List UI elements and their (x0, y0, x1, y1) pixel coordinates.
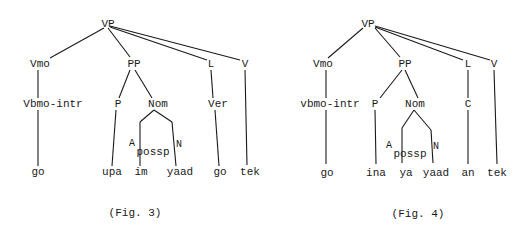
fig3-edges (38, 26, 247, 166)
node-l: L (465, 58, 472, 70)
node-pp: PP (398, 58, 411, 70)
node-vp: VP (361, 18, 374, 30)
node-p: P (372, 98, 379, 110)
node-p: P (115, 98, 122, 110)
node-nom: Nom (405, 98, 425, 110)
leaf-word: yaad (423, 167, 449, 179)
fig4-edges (326, 26, 497, 164)
leaf-word: go (320, 167, 333, 179)
node-a: A (129, 138, 135, 150)
node-vbmo-intr: Vbmo-intr (23, 98, 82, 110)
tree-edges (0, 0, 530, 240)
figure-caption: (Fig. 3) (109, 207, 162, 219)
leaf-word: go (213, 166, 226, 178)
leaf-word: yaad (167, 166, 193, 178)
node-ver: Ver (208, 98, 228, 110)
leaf-word: tek (240, 166, 260, 178)
leaf-word: ya (399, 167, 412, 179)
leaf-word: im (134, 166, 147, 178)
leaf-word: an (461, 167, 474, 179)
node-vbmo-intr: vbmo-intr (300, 98, 359, 110)
leaf-word: go (31, 166, 44, 178)
node-v: V (242, 58, 249, 70)
leaf-word: ina (366, 167, 386, 179)
node-possp: possp (393, 148, 426, 160)
figure-caption: (Fig. 4) (392, 208, 445, 220)
node-vmo: Vmo (313, 58, 333, 70)
node-l: L (208, 58, 215, 70)
node-a: A (386, 140, 392, 152)
node-pp: PP (127, 58, 140, 70)
node-nom: Nom (148, 98, 168, 110)
node-vmo: Vmo (30, 58, 50, 70)
leaf-word: tek (487, 167, 507, 179)
node-vp: VP (101, 18, 114, 30)
node-n: N (176, 139, 182, 151)
node-possp: possp (136, 146, 169, 158)
node-c: C (465, 98, 472, 110)
leaf-word: upa (102, 166, 122, 178)
node-n: N (433, 141, 439, 153)
node-v: V (491, 58, 498, 70)
